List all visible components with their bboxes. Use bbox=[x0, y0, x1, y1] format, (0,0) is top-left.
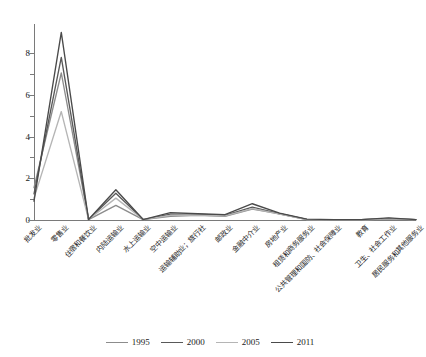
legend-swatch-icon bbox=[271, 342, 293, 343]
legend-item-2005[interactable]: 2005 bbox=[216, 338, 260, 347]
x-tick-label: 教育 bbox=[356, 224, 372, 240]
plot-area: 02468 bbox=[0, 0, 420, 240]
x-tick-label: 邮政业 bbox=[214, 224, 235, 245]
legend-swatch-icon bbox=[161, 342, 183, 343]
x-tick-label: 零售业 bbox=[50, 224, 71, 245]
series-line-1995 bbox=[34, 73, 416, 220]
legend-label: 2000 bbox=[187, 338, 205, 347]
legend-swatch-icon bbox=[106, 342, 128, 343]
legend-label: 1995 bbox=[132, 338, 150, 347]
legend-label: 2005 bbox=[242, 338, 260, 347]
legend-label: 2011 bbox=[297, 338, 315, 347]
legend-item-2011[interactable]: 2011 bbox=[271, 338, 315, 347]
x-tick-label: 内陆运输业 bbox=[95, 224, 125, 254]
x-axis-tick-labels: 批发业零售业住宿和餐饮业内陆运输业水上运输业空中运输业运输辅助业；旅行社邮政业金… bbox=[0, 222, 420, 326]
chart-legend: 1995200020052011 bbox=[0, 331, 420, 353]
series-line-2005 bbox=[34, 112, 416, 220]
x-tick-label: 批发业 bbox=[23, 224, 44, 245]
x-tick-label: 金融中介业 bbox=[232, 224, 262, 254]
series-line-2000 bbox=[34, 57, 416, 219]
x-tick-label: 居民服务和其他服务业 bbox=[371, 224, 426, 279]
legend-item-1995[interactable]: 1995 bbox=[106, 338, 150, 347]
legend-swatch-icon bbox=[216, 342, 238, 343]
x-tick-label: 房地产业 bbox=[264, 224, 289, 249]
x-tick-label: 水上运输业 bbox=[122, 224, 152, 254]
series-line-2011 bbox=[34, 32, 416, 219]
legend-item-2000[interactable]: 2000 bbox=[161, 338, 205, 347]
series-lines-group bbox=[0, 0, 420, 240]
